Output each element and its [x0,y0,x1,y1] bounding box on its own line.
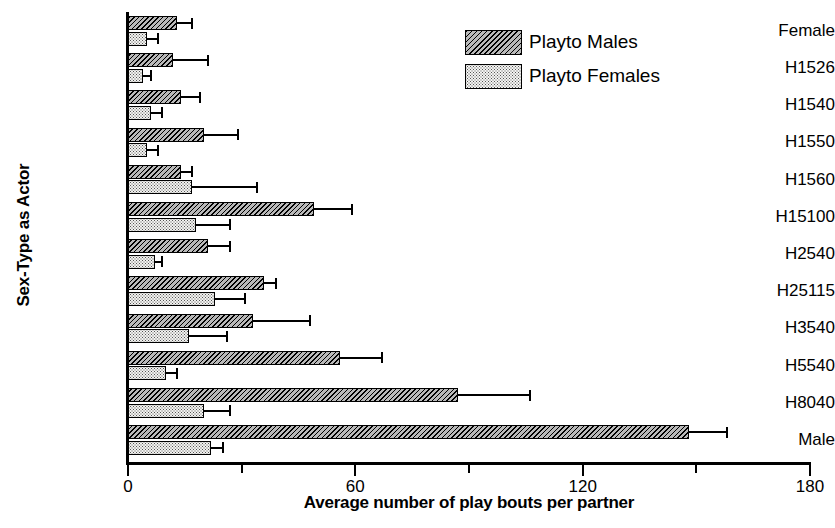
error-bar-line [253,320,310,322]
y-category-label: H15100 [717,207,835,227]
error-bar-cap [529,390,531,401]
y-category-label: H1540 [717,95,835,115]
bar-females [128,404,204,418]
error-bar-cap [191,18,193,29]
bar-males [128,53,173,67]
x-tick-major [127,465,129,476]
error-bar-cap [150,70,152,81]
bar-females [128,69,143,83]
bar-females [128,255,155,269]
error-bar-cap [226,331,228,342]
error-bar-cap [176,368,178,379]
error-bar-cap [237,129,239,140]
error-bar-cap [229,241,231,252]
error-bar-cap [199,92,201,103]
error-bar-cap [244,293,246,304]
bar-females [128,218,196,232]
bar-females [128,32,147,46]
bar-males [128,128,204,142]
bar-males [128,276,264,290]
legend-label-males: Playto Males [529,31,638,53]
error-bar-line [215,298,245,300]
y-axis-title: Sex-Type as Actor [14,105,34,365]
error-bar-cap [157,145,159,156]
bar-females [128,441,211,455]
bar-males [128,165,181,179]
error-bar-cap [351,204,353,215]
bar-males [128,425,689,439]
y-category-label: Male [717,430,835,450]
error-bar-cap [161,256,163,267]
x-tick-major [582,465,584,476]
error-bar-cap [309,315,311,326]
error-bar-line [181,96,200,98]
error-bar-line [458,394,530,396]
error-bar-cap [191,166,193,177]
x-tick-minor [468,465,470,473]
error-bar-cap [256,182,258,193]
error-bar-line [189,335,227,337]
bar-females [128,180,192,194]
legend-label-females: Playto Females [529,65,660,87]
error-bar-line [173,59,207,61]
bar-females [128,106,151,120]
legend-swatch-males-icon [465,30,522,55]
y-category-label: H8040 [717,393,835,413]
error-bar-cap [157,33,159,44]
legend-swatch-females-icon [465,64,522,89]
error-bar-line [204,134,238,136]
y-category-label: H1526 [717,58,835,78]
y-category-label: H1550 [717,132,835,152]
x-tick-major [354,465,356,476]
x-tick-minor [241,465,243,473]
bar-females [128,143,147,157]
bar-males [128,314,253,328]
error-bar-line [340,357,382,359]
chart-container: Sex-Type as Actor FemaleH1526H1540H1550H… [0,0,835,528]
bar-females [128,292,215,306]
y-category-label: H2540 [717,244,835,264]
y-category-label: Female [717,21,835,41]
error-bar-line [208,245,231,247]
chart-legend: Playto Males Playto Females [465,28,660,96]
bar-females [128,329,189,343]
bar-males [128,351,340,365]
bar-males [128,388,458,402]
y-category-label: H3540 [717,318,835,338]
bar-males [128,202,314,216]
y-category-label: H25115 [717,281,835,301]
error-bar-cap [222,442,224,453]
error-bar-cap [726,427,728,438]
legend-item-females: Playto Females [465,62,660,90]
error-bar-cap [381,352,383,363]
legend-item-males: Playto Males [465,28,660,56]
bar-males [128,90,181,104]
bar-females [128,366,166,380]
error-bar-line [689,431,727,433]
error-bar-line [204,410,231,412]
y-category-label: H1560 [717,170,835,190]
bar-males [128,239,208,253]
error-bar-line [192,186,256,188]
error-bar-cap [229,405,231,416]
error-bar-cap [161,107,163,118]
error-bar-line [177,22,192,24]
y-category-label: H5540 [717,356,835,376]
error-bar-line [196,224,230,226]
x-axis-title: Average number of play bouts per partner [128,493,810,513]
error-bar-cap [229,219,231,230]
error-bar-cap [207,55,209,66]
error-bar-cap [275,278,277,289]
error-bar-line [314,208,352,210]
x-tick-major [809,465,811,476]
x-tick-minor [695,465,697,473]
bar-males [128,16,177,30]
